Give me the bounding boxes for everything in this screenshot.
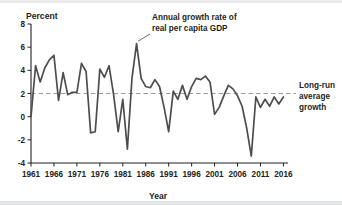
x-tick-label: 1971 — [68, 170, 87, 179]
y-tick-label: 0 — [20, 113, 25, 122]
x-axis: 1961196619711976198119861991199620012006… — [22, 163, 293, 179]
x-tick-label: 1981 — [114, 170, 133, 179]
x-tick-label: 1961 — [22, 170, 41, 179]
series-annotation-line-2: real per capita GDP — [152, 24, 228, 33]
x-tick-label: 1966 — [45, 170, 64, 179]
y-tick-label: 8 — [20, 20, 25, 29]
line-chart-plot: 86420-2-4 196119661971197619811986199119… — [0, 0, 342, 205]
x-tick-label: 2011 — [252, 170, 270, 179]
series-group — [31, 44, 283, 156]
y-tick-label: 2 — [20, 90, 25, 99]
x-tick-label: 2016 — [274, 170, 293, 179]
y-tick-label: -2 — [18, 136, 26, 145]
series-path — [31, 44, 283, 156]
x-tick-label: 1986 — [137, 170, 156, 179]
x-tick-label: 1996 — [183, 170, 202, 179]
annotation-leader-line — [138, 34, 150, 41]
y-tick-label: 4 — [20, 66, 25, 75]
x-tick-label: 2006 — [228, 170, 247, 179]
chart-figure: 86420-2-4 196119661971197619811986199119… — [0, 0, 342, 205]
x-axis-title: Year — [149, 191, 168, 201]
x-tick-label: 2001 — [205, 170, 224, 179]
y-axis-title: Percent — [26, 11, 58, 21]
y-axis: 86420-2-4 — [18, 20, 31, 168]
reference-annotation-line-3: growth — [299, 103, 326, 112]
reference-annotation-line-1: Long-run — [299, 81, 335, 90]
series-annotation-line-1: Annual growth rate of — [152, 13, 237, 22]
x-tick-label: 1976 — [91, 170, 110, 179]
y-tick-label: -4 — [18, 159, 26, 168]
y-tick-label: 6 — [20, 43, 25, 52]
reference-annotation-line-2: average — [299, 92, 330, 101]
x-tick-label: 1991 — [160, 170, 179, 179]
